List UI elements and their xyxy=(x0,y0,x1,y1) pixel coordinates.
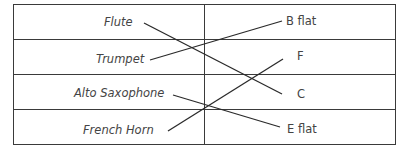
match-lines xyxy=(0,0,404,156)
matching-diagram: Flute Trumpet Alto Saxophone French Horn… xyxy=(0,0,404,156)
match-line-flute-c xyxy=(144,23,282,94)
match-line-alto-saxophone-e-flat xyxy=(173,95,280,127)
match-line-trumpet-b-flat xyxy=(150,21,282,60)
match-line-french-horn-f xyxy=(168,59,283,131)
